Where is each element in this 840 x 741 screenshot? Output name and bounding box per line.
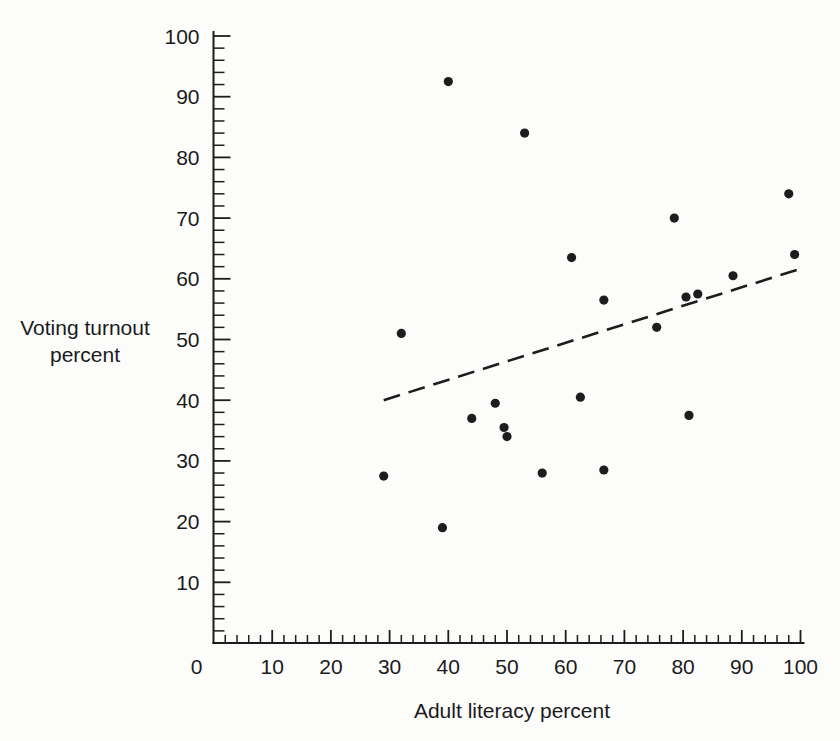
y-tick-label: 30	[176, 449, 199, 472]
data-point	[599, 465, 608, 474]
data-point	[693, 289, 702, 298]
data-point	[652, 323, 661, 332]
data-point	[491, 399, 500, 408]
x-tick-label: 70	[613, 655, 636, 678]
y-axis-title: Voting turnout percent	[12, 314, 158, 368]
x-tick-label: 80	[671, 655, 694, 678]
data-point	[684, 411, 693, 420]
x-tick-label: 60	[554, 655, 577, 678]
y-tick-label: 90	[176, 85, 199, 108]
data-point	[444, 77, 453, 86]
x-tick-label: 20	[319, 655, 342, 678]
data-point	[538, 468, 547, 477]
data-point	[790, 250, 799, 259]
data-point	[567, 253, 576, 262]
data-point	[379, 471, 388, 480]
y-axis-title-line1: Voting turnout	[12, 314, 158, 341]
x-axis-title: Adult literacy percent	[362, 699, 662, 723]
x-tick-label: 100	[783, 655, 818, 678]
data-point	[784, 189, 793, 198]
data-point	[397, 329, 406, 338]
data-point	[681, 292, 690, 301]
y-axis-title-line2: percent	[12, 341, 158, 368]
data-point	[576, 393, 585, 402]
trend-line	[384, 270, 798, 401]
data-point	[728, 271, 737, 280]
scatter-plot-figure: 0102030405060708090100102030405060708090…	[0, 0, 840, 741]
y-tick-label: 80	[176, 146, 199, 169]
data-point	[502, 432, 511, 441]
x-tick-label: 90	[730, 655, 753, 678]
scatter-chart-canvas: 0102030405060708090100102030405060708090…	[0, 0, 840, 741]
data-point	[438, 523, 447, 532]
x-tick-label: 10	[261, 655, 284, 678]
x-tick-label: 30	[378, 655, 401, 678]
x-tick-label: 50	[495, 655, 518, 678]
y-tick-label: 100	[164, 25, 199, 48]
y-tick-label: 10	[176, 571, 199, 594]
x-tick-label: 40	[437, 655, 460, 678]
data-point	[467, 414, 476, 423]
data-point	[670, 214, 679, 223]
y-tick-label: 60	[176, 267, 199, 290]
data-point	[599, 295, 608, 304]
y-tick-label: 50	[176, 328, 199, 351]
y-tick-label: 70	[176, 207, 199, 230]
data-point	[520, 129, 529, 138]
x-tick-label: 0	[191, 655, 203, 678]
data-point	[499, 423, 508, 432]
y-tick-label: 40	[176, 389, 199, 412]
y-tick-label: 20	[176, 510, 199, 533]
